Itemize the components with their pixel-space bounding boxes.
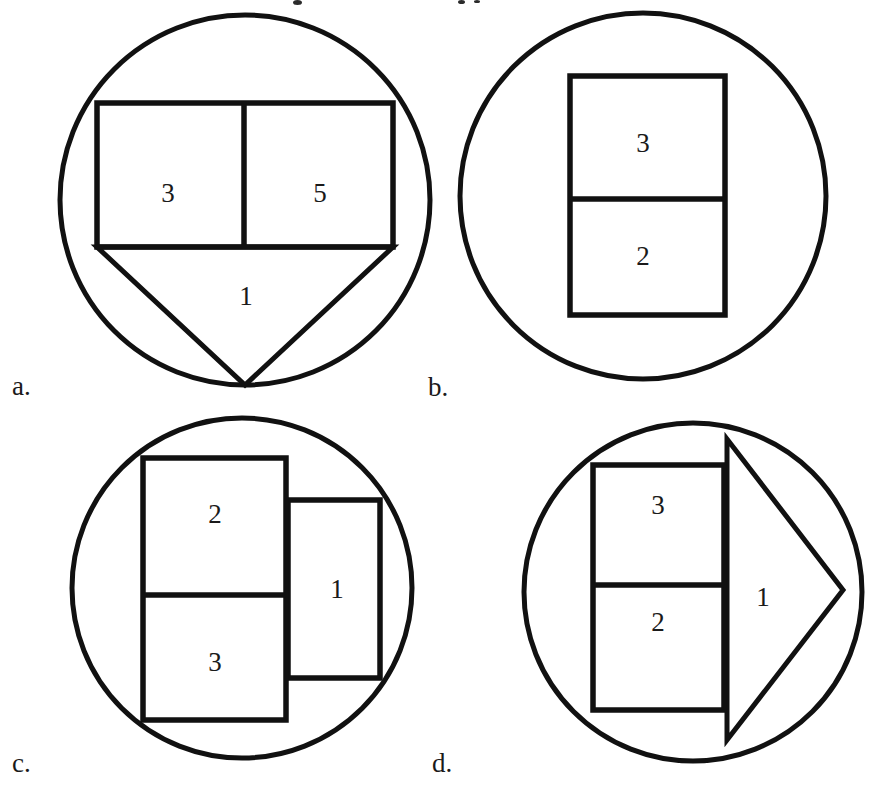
crop-artifacts-group [293, 0, 480, 5]
panel-b-rect-0 [570, 76, 725, 315]
panel-a-region-label-1: 1 [239, 281, 253, 311]
panel-letter-a: a. [12, 371, 31, 401]
panel-a-region-label-5: 5 [313, 178, 327, 208]
crop-artifact-0 [293, 0, 302, 5]
panel-letter-b: b. [428, 372, 448, 402]
crop-artifact-1 [458, 0, 465, 4]
panel-b-region-label-2: 2 [636, 241, 650, 271]
panel-c-region-label-2: 2 [208, 499, 222, 529]
panel-b-region-label-3: 3 [636, 128, 650, 158]
panel-d-region-label-3: 3 [651, 490, 665, 520]
panel-b-circle [460, 13, 826, 379]
panel-a-triangle [97, 247, 393, 385]
panel-d: 321d. [432, 423, 862, 778]
panel-c-region-label-1: 1 [330, 574, 344, 604]
panel-d-region-label-2: 2 [651, 607, 665, 637]
crop-artifact-2 [474, 0, 480, 3]
figure-container: 351a.32b.231c.321d. [0, 0, 877, 790]
panel-c-rect-1 [143, 458, 286, 720]
panel-c: 231c. [12, 418, 412, 778]
panels-group: 351a.32b.231c.321d. [12, 13, 862, 778]
panel-a-region-label-3: 3 [161, 178, 175, 208]
panel-d-region-label-1: 1 [756, 582, 770, 612]
panel-b: 32b. [428, 13, 826, 402]
panel-letter-c: c. [12, 748, 31, 778]
panel-letter-d: d. [432, 748, 452, 778]
panel-a: 351a. [12, 15, 430, 401]
panel-c-region-label-3: 3 [208, 647, 222, 677]
diagram-canvas: 351a.32b.231c.321d. [0, 0, 877, 790]
panel-c-circle [72, 418, 412, 758]
